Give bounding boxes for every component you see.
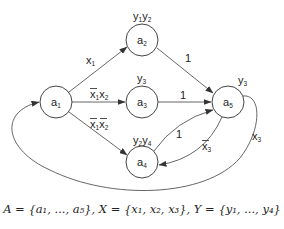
edge-label-1-a2-a5: 1: [185, 52, 191, 64]
a3-output-label: y3: [137, 72, 147, 85]
edge-a1-a4: [69, 112, 127, 155]
sets-caption: A = {a₁, ..., a₅}, X = {x₁, x₂, x₃}, Y =…: [0, 202, 284, 216]
node-a5: a5: [212, 86, 244, 118]
edge-a1-a2: [69, 47, 127, 92]
node-a4: a4: [126, 146, 158, 178]
node-a2: a2: [126, 24, 158, 56]
edge-label-1-a4-a5: 1: [176, 128, 182, 140]
a5-output-label: y3: [238, 74, 248, 87]
svg-text:x3: x3: [202, 140, 212, 153]
svg-text:x1x2: x1x2: [90, 118, 109, 131]
edge-label-notx3: x3: [202, 140, 212, 153]
a2-output-label: y1y2: [133, 10, 152, 23]
svg-text:x1x2: x1x2: [90, 88, 109, 101]
a4-output-label: y2y4: [133, 134, 152, 147]
edge-label-notx1-x2: x1x2: [90, 88, 109, 101]
edge-label-notx1-notx2: x1x2: [90, 118, 109, 131]
edge-label-x3: x3: [252, 130, 262, 143]
node-a1: a1: [40, 86, 72, 118]
edge-label-x1: x1: [86, 54, 96, 67]
node-a3: a3: [126, 86, 158, 118]
edge-a5-a4: [159, 117, 222, 165]
state-diagram: a1 a2 a3 a4 a5 y1y2 y3 y2y4 y3 x1 x1x2 x…: [0, 0, 284, 229]
edge-label-1-a3-a5: 1: [180, 89, 186, 101]
